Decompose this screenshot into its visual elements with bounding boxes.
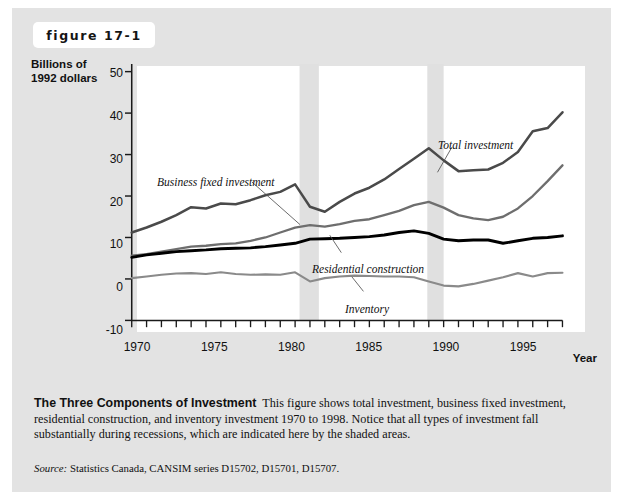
y-tick-label: 40 bbox=[97, 109, 123, 123]
y-tick-label: 0 bbox=[97, 280, 123, 294]
x-tick-label: 1970 bbox=[115, 340, 159, 354]
x-tick-label: 1985 bbox=[347, 340, 391, 354]
x-tick-label: 1975 bbox=[192, 340, 236, 354]
series-line-total-investment bbox=[132, 112, 563, 232]
x-tick-label: 1990 bbox=[424, 340, 468, 354]
annotation-inventory: Inventory bbox=[345, 303, 389, 315]
y-tick-label: 50 bbox=[97, 66, 123, 80]
annotation-total-investment: Total investment bbox=[438, 139, 513, 151]
x-axis-title: Year bbox=[573, 352, 597, 364]
series-line-residential-construction bbox=[132, 231, 563, 258]
y-tick-label: 30 bbox=[97, 152, 123, 166]
x-tick-label: 1980 bbox=[269, 340, 313, 354]
y-tick-label: 20 bbox=[97, 195, 123, 209]
figure-caption: The Three Components of Investment This … bbox=[34, 396, 574, 443]
leader-business-fixed bbox=[252, 182, 300, 225]
x-tick-label: 1995 bbox=[501, 340, 545, 354]
y-tick-label: -10 bbox=[97, 323, 123, 337]
source-label: Source: bbox=[34, 462, 67, 474]
axis-lines bbox=[132, 64, 563, 321]
figure-source: Source: Statistics Canada, CANSIM series… bbox=[34, 462, 574, 474]
y-tick-label: 10 bbox=[97, 237, 123, 251]
caption-title: The Three Components of Investment bbox=[34, 396, 256, 410]
annotation-business-fixed: Business fixed investment bbox=[157, 176, 275, 188]
leader-inventory bbox=[352, 277, 364, 292]
annotation-residential: Residential construction bbox=[312, 263, 424, 275]
source-text: Statistics Canada, CANSIM series D15702,… bbox=[70, 462, 339, 474]
figure-page: figure 17-1 Billions of 1992 dollars 504… bbox=[0, 0, 623, 500]
